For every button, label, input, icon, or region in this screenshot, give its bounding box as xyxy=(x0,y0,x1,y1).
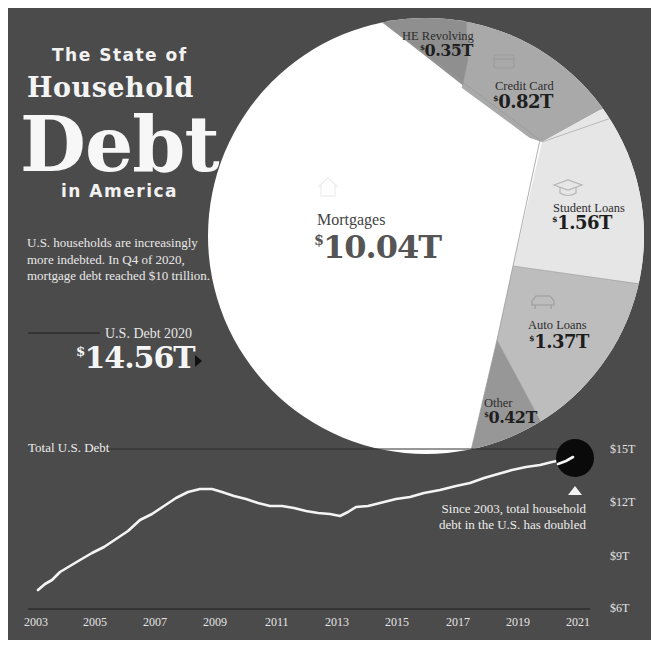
x-tick-2017: 2017 xyxy=(446,615,470,630)
x-tick-2021: 2021 xyxy=(566,615,590,630)
mortgages-label: Mortgages xyxy=(317,211,385,229)
student-loans-value: $1.56T xyxy=(552,212,612,233)
total-value: $14.56T xyxy=(76,340,195,375)
car-icon xyxy=(528,293,558,311)
credit-card-value: $0.82T xyxy=(493,91,553,112)
graduation-cap-icon xyxy=(551,178,585,200)
y-tick-12t: $12T xyxy=(610,495,635,510)
x-tick-2011: 2011 xyxy=(265,615,289,630)
title-line-4: in America xyxy=(61,181,178,201)
house-icon xyxy=(316,176,340,198)
credit-card-icon xyxy=(492,52,516,70)
y-tick-9t: $9T xyxy=(610,549,629,564)
y-tick-6t: $6T xyxy=(610,601,629,616)
x-tick-2003: 2003 xyxy=(24,615,48,630)
x-tick-2013: 2013 xyxy=(325,615,349,630)
end-marker xyxy=(556,439,594,477)
title-line-3: Debt xyxy=(20,107,219,183)
auto-loans-value: $1.37T xyxy=(529,331,589,352)
y-tick-15t: $15T xyxy=(610,442,635,457)
mortgages-value: $10.04T xyxy=(314,228,441,266)
line-chart-title: Total U.S. Debt xyxy=(28,440,109,456)
intro-paragraph: U.S. households are increasingly more in… xyxy=(27,235,227,285)
other-value: $0.42T xyxy=(484,408,537,427)
he-revolving-value: $0.35T xyxy=(420,41,473,60)
x-tick-2005: 2005 xyxy=(83,615,107,630)
arrow-up-icon xyxy=(568,486,582,495)
title-line-2: Household xyxy=(27,72,194,103)
arrow-right-icon xyxy=(195,355,202,367)
x-tick-2019: 2019 xyxy=(506,615,530,630)
annotation-text: Since 2003, total household debt in the … xyxy=(436,501,586,533)
title-line-1: The State of xyxy=(52,45,188,65)
x-tick-2007: 2007 xyxy=(143,615,167,630)
x-tick-2009: 2009 xyxy=(203,615,227,630)
x-tick-2015: 2015 xyxy=(385,615,409,630)
